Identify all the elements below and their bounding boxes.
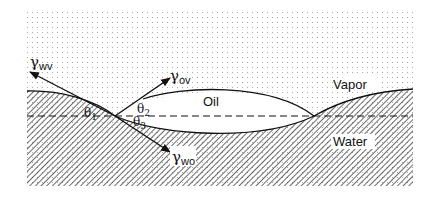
vapor-label: Vapor (333, 77, 367, 92)
water-label: Water (333, 134, 368, 149)
oil-label: Oil (203, 94, 219, 109)
oil-lens-diagram: γwv γov γwo θ1 θ2 θ3 Oil Vapor Water (0, 0, 434, 209)
